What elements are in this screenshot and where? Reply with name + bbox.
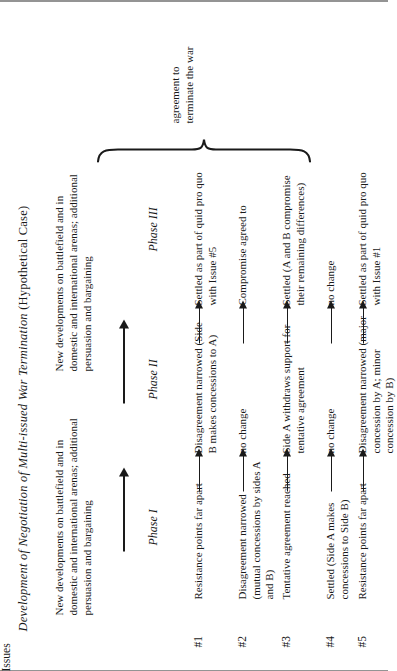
phase-header-3: Phase III [146, 207, 161, 251]
arrow-head [119, 319, 129, 328]
arrow-shaft [331, 455, 332, 491]
arrow-shaft [287, 307, 288, 343]
big-arrow-phase1-phase2 [118, 467, 129, 551]
row-arrow-p2-p3 [238, 299, 249, 343]
arrow-head [119, 467, 129, 476]
arrow-shaft [363, 455, 364, 491]
row-arrow-p1-p2 [282, 447, 293, 491]
row-arrow-p1-p2 [238, 447, 249, 491]
cell-phase3: Compromise agreed to [236, 167, 250, 305]
issue-number: #1 [192, 613, 204, 647]
arrow-shaft [123, 327, 125, 403]
phase-header-1: Phase I [146, 509, 161, 545]
arrow-shaft [331, 307, 332, 343]
phase-header-2: Phase II [146, 359, 161, 399]
row-arrow-p1-p2 [194, 447, 205, 491]
arrow-shaft [363, 307, 364, 343]
arrow-shaft [199, 307, 200, 343]
arrow-shaft [243, 455, 244, 491]
arrow-shaft [199, 455, 200, 491]
banner-phase1-to-phase2: New developments on battlefield and in d… [52, 405, 94, 615]
cell-phase3: Settled (A and B compromise their remain… [280, 167, 307, 305]
figure-title-roman: (Hypothetical Case) [16, 205, 30, 309]
row-arrow-p1-p2 [326, 447, 337, 491]
big-arrow-phase2-phase3 [118, 319, 129, 403]
row-arrow-p2-p3 [358, 299, 369, 343]
issue-number: #3 [280, 613, 292, 647]
issue-number: #4 [324, 613, 336, 647]
row-arrow-p2-p3 [282, 299, 293, 343]
issue-number: #5 [356, 613, 368, 647]
arrow-shaft [243, 307, 244, 343]
row-arrow-p1-p2 [358, 447, 369, 491]
right-brace [96, 129, 312, 163]
figure-title-italic: Development of Negotiation of Multi-issu… [16, 313, 30, 631]
arrow-shaft [123, 475, 125, 551]
figure-title: Development of Negotiation of Multi-issu… [16, 31, 31, 631]
banner-phase2-to-phase3: New developments on battlefield and in d… [52, 161, 94, 371]
arrow-shaft [287, 455, 288, 491]
issue-number: #2 [236, 613, 248, 647]
row-arrow-p2-p3 [194, 299, 205, 343]
cell-phase3: no change [324, 167, 338, 305]
cell-phase3: Settled as part of quid pro quo with Iss… [192, 167, 219, 305]
row-arrow-p2-p3 [326, 299, 337, 343]
outcome-label: agreement to terminate the war [168, 23, 196, 123]
cell-phase3: Settled as part of quid pro quo with Iss… [356, 167, 383, 305]
brace-icon [96, 129, 312, 163]
